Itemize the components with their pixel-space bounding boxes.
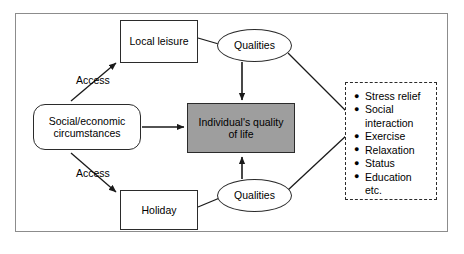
benefits-list-item: ●Relaxation (354, 144, 430, 157)
node-social-economic-circumstances[interactable]: Social/economic circumstances (33, 104, 141, 150)
bullet-icon: ● (354, 104, 359, 116)
node-holiday[interactable]: Holiday (120, 190, 198, 230)
node-qualities-top[interactable]: Qualities (217, 29, 292, 62)
node-qualities-top-label: Qualities (234, 39, 275, 51)
node-local-leisure[interactable]: Local leisure (120, 20, 198, 63)
benefits-list-item: ●Exercise (354, 130, 430, 143)
bullet-icon: ● (354, 131, 359, 143)
node-qualities-bottom[interactable]: Qualities (217, 179, 292, 212)
bullet-icon: ● (354, 158, 359, 170)
bullet-icon: ● (354, 91, 359, 103)
node-social-economic-label: Social/economic circumstances (49, 115, 125, 139)
node-individual-quality-of-life-label: Individual's quality of life (199, 116, 284, 140)
benefits-list-item-label: Stress relief (365, 90, 420, 102)
edge-label-access-bottom: Access (76, 167, 110, 179)
benefits-list-box: ●Stress relief●Social interaction●Exerci… (345, 82, 437, 200)
benefits-list-item: ●Status (354, 157, 430, 170)
benefits-list-item-label: etc. (365, 184, 382, 196)
benefits-list-item: ●Stress relief (354, 90, 430, 103)
benefits-list: ●Stress relief●Social interaction●Exerci… (354, 90, 430, 198)
benefits-list-item-label: Exercise (365, 130, 405, 142)
benefits-list-item: ●Education (354, 171, 430, 184)
benefits-list-item-label: Social interaction (365, 103, 413, 128)
node-holiday-label: Holiday (141, 204, 176, 216)
benefits-list-item-label: Education (365, 171, 412, 183)
edge-label-access-top: Access (76, 74, 110, 86)
benefits-list-item-label: Relaxation (365, 144, 415, 156)
node-qualities-bottom-label: Qualities (234, 189, 275, 201)
bullet-icon: ● (354, 171, 359, 183)
benefits-list-item-label: Status (365, 157, 395, 169)
bullet-icon: ● (354, 144, 359, 156)
node-local-leisure-label: Local leisure (130, 35, 189, 47)
benefits-list-item: ●Social interaction (354, 103, 430, 130)
benefits-list-item: etc. (354, 184, 430, 197)
node-individual-quality-of-life[interactable]: Individual's quality of life (187, 103, 295, 153)
diagram-root: Local leisure Social/economic circumstan… (0, 0, 464, 254)
